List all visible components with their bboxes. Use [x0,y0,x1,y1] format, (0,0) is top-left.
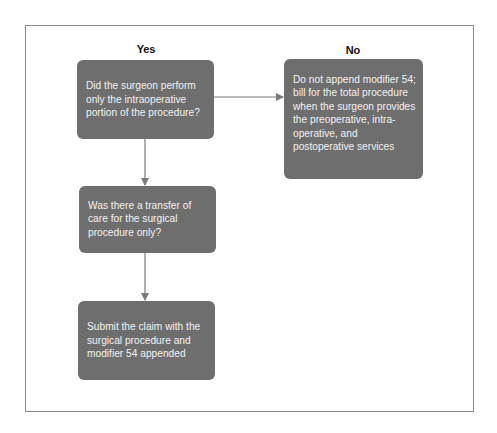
do-not-append-modifier-box: Do not append modifier 54; bill for the … [284,59,423,179]
question-transfer-of-care-text: Was there a transfer of care for the sur… [88,199,210,239]
question-intraoperative-only-text: Did the surgeon perform only the intraop… [86,79,208,119]
question-intraoperative-only-box: Did the surgeon perform only the intraop… [77,60,214,139]
do-not-append-modifier-text: Do not append modifier 54; bill for the … [293,73,417,153]
no-column-label: No [323,44,383,56]
question-transfer-of-care-box: Was there a transfer of care for the sur… [79,186,216,253]
yes-column-label: Yes [116,43,176,55]
submit-claim-text: Submit the claim with the surgical proce… [87,320,209,360]
submit-claim-box: Submit the claim with the surgical proce… [78,301,215,380]
